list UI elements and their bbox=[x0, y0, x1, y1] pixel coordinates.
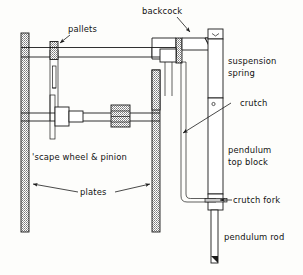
escape-wheel-arbor bbox=[21, 113, 160, 121]
escape-wheel bbox=[50, 95, 83, 139]
clock-pendulum-diagram: pallets backcock suspension spring crutc… bbox=[0, 0, 303, 275]
leader-plates-left bbox=[33, 184, 78, 192]
diagram-page: pallets backcock suspension spring crutc… bbox=[0, 0, 303, 275]
left-plate bbox=[21, 33, 29, 232]
label-backcock: backcock bbox=[142, 6, 182, 16]
pendulum-rod bbox=[211, 210, 218, 263]
leader-crutch bbox=[183, 103, 231, 133]
label-suspension-spring-line1: suspension bbox=[228, 56, 276, 66]
pallets bbox=[50, 42, 58, 60]
label-crutch-fork: crutch fork bbox=[233, 195, 280, 205]
label-scape-wheel-pinion: 'scape wheel & pinion bbox=[32, 152, 127, 162]
label-pendulum-top-block-line2: top block bbox=[228, 157, 268, 167]
label-suspension-spring-line2: spring bbox=[228, 68, 255, 78]
label-plates: plates bbox=[80, 187, 106, 197]
leader-backcock bbox=[177, 17, 190, 32]
pinion bbox=[111, 105, 130, 127]
pendulum-top-block bbox=[208, 98, 223, 210]
leader-pallets bbox=[60, 35, 70, 43]
label-pendulum-rod: pendulum rod bbox=[224, 232, 284, 242]
suspension-spring bbox=[208, 39, 223, 98]
label-pallets: pallets bbox=[68, 24, 97, 34]
label-pendulum-top-block-line1: pendulum bbox=[228, 145, 271, 155]
leader-plates-right bbox=[115, 184, 150, 192]
label-crutch: crutch bbox=[240, 98, 267, 108]
